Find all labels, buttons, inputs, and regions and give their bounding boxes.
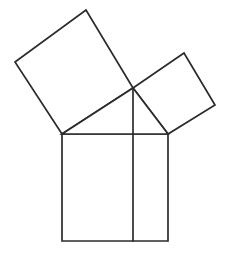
geometry-diagram bbox=[0, 0, 233, 254]
hypotenuse-square bbox=[62, 134, 168, 241]
pythagorean-figure-canvas bbox=[0, 0, 233, 254]
